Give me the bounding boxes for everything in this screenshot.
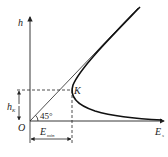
emin-label: E xyxy=(39,126,46,137)
point-k-label: K xyxy=(73,85,82,96)
origin-label: O xyxy=(18,122,25,133)
svg-text:min: min xyxy=(47,133,55,138)
svg-text:K: K xyxy=(11,108,16,113)
y-axis-label: h xyxy=(18,17,23,28)
x-axis-label: E xyxy=(154,126,161,137)
specific-energy-diagram: h O E s K 45° h K E min xyxy=(0,0,168,157)
specific-energy-curve xyxy=(72,7,162,120)
svg-text:s: s xyxy=(162,133,164,138)
angle-label: 45° xyxy=(40,111,53,121)
angle-arc xyxy=(36,115,38,121)
